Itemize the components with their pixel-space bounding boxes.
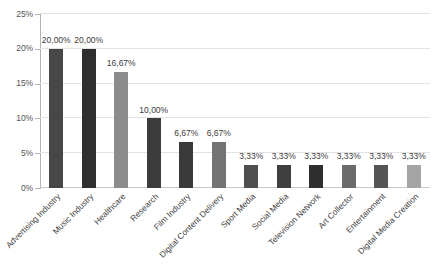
bar-slot: 16,67% (105, 14, 138, 188)
bar-value-label: 3,33% (337, 152, 361, 161)
bar-value-label: 6,67% (207, 129, 231, 138)
bar-slot: 3,33% (300, 14, 333, 188)
y-axis-tick-label: 0% (3, 184, 33, 193)
bar[interactable] (244, 165, 258, 188)
bar-value-label: 6,67% (174, 129, 198, 138)
bar-slot: 6,67% (203, 14, 236, 188)
bar-value-label: 3,33% (369, 152, 393, 161)
y-axis-tick-label: 25% (3, 10, 33, 19)
bar-slot: 20,00% (73, 14, 106, 188)
bar-value-label: 20,00% (74, 36, 103, 45)
bar[interactable] (114, 72, 128, 188)
y-axis-tick-label: 15% (3, 79, 33, 88)
bar[interactable] (342, 165, 356, 188)
bar[interactable] (277, 165, 291, 188)
bar-chart: 0%5%10%15%20%25% 20,00%20,00%16,67%10,00… (0, 0, 442, 279)
bar[interactable] (82, 49, 96, 188)
bar[interactable] (212, 142, 226, 188)
y-axis-tick-label: 5% (3, 149, 33, 158)
bar-value-label: 3,33% (304, 152, 328, 161)
bar-value-label: 3,33% (272, 152, 296, 161)
bar[interactable] (147, 118, 161, 188)
bar-slot: 10,00% (138, 14, 171, 188)
bar-slot: 3,33% (268, 14, 301, 188)
bar-slot: 3,33% (365, 14, 398, 188)
bar-value-label: 16,67% (107, 59, 136, 68)
bar-value-label: 20,00% (42, 36, 71, 45)
bar-slot: 6,67% (170, 14, 203, 188)
bar[interactable] (49, 49, 63, 188)
plot-area: 20,00%20,00%16,67%10,00%6,67%6,67%3,33%3… (40, 14, 430, 188)
bar-value-label: 10,00% (139, 106, 168, 115)
bar[interactable] (374, 165, 388, 188)
y-axis-tick-label: 10% (3, 114, 33, 123)
bar-value-label: 3,33% (239, 152, 263, 161)
bar[interactable] (179, 142, 193, 188)
bar-slot: 3,33% (398, 14, 431, 188)
bar-slot: 3,33% (235, 14, 268, 188)
y-axis-tick-label: 20% (3, 44, 33, 53)
bar-slot: 3,33% (333, 14, 366, 188)
bar[interactable] (309, 165, 323, 188)
y-axis-tick-mark (35, 188, 40, 189)
bar[interactable] (407, 165, 421, 188)
bar-slot: 20,00% (40, 14, 73, 188)
bar-value-label: 3,33% (402, 152, 426, 161)
